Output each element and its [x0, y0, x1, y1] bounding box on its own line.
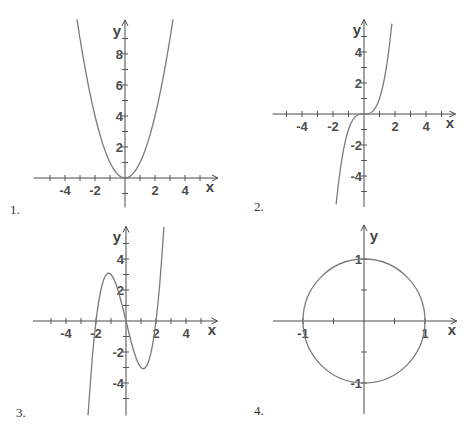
x-axis-label: x [206, 178, 215, 195]
x-axis-label: x [448, 321, 457, 338]
y-tick-label: 2 [116, 140, 123, 155]
y-tick-label: 4 [116, 109, 124, 124]
x-axis-label: x [446, 114, 455, 131]
x-axis: -11 [273, 318, 457, 341]
y-tick-label: 6 [116, 78, 123, 93]
panel-4-unit-circle-graph: -111-1xy4. [254, 225, 457, 418]
y-tick-label: 8 [116, 47, 123, 62]
y-axis-label: y [113, 228, 122, 245]
y-tick-label: -4 [350, 169, 362, 184]
figure-canvas: -4-2242468xy1. -4-22442-2-4xy2. -4-22442… [0, 0, 475, 438]
x-tick-label: 4 [182, 326, 190, 341]
x-tick-label: -2 [89, 183, 101, 198]
panel-number-label: 1. [10, 202, 20, 217]
panel-1-parabola-graph: -4-2242468xy1. [10, 19, 218, 217]
y-tick-label: -2 [350, 138, 362, 153]
y-axis-label: y [370, 227, 379, 244]
y-tick-label: -2 [112, 345, 124, 360]
panel-2-cubic-graph: -4-22442-2-4xy2. [254, 19, 455, 214]
x-tick-label: -2 [327, 119, 339, 134]
y-axis: 42-2-4 [350, 19, 367, 207]
y-tick-label: 4 [117, 252, 125, 267]
x-tick-label: -4 [59, 183, 71, 198]
y-axis: 2468 [116, 20, 128, 208]
y-axis-label: y [353, 21, 362, 38]
y-tick-label: 4 [355, 45, 363, 60]
y-tick-label: -4 [112, 376, 124, 391]
panel-number-label: 3. [16, 405, 26, 420]
y-axis-label: y [113, 22, 122, 39]
y-tick-label: 2 [355, 76, 362, 91]
x-tick-label: -2 [90, 326, 102, 341]
x-tick-label: -4 [60, 326, 72, 341]
x-axis-label: x [208, 321, 217, 338]
x-tick-label: 4 [181, 183, 189, 198]
x-tick-label: 2 [151, 183, 158, 198]
panel-number-label: 4. [254, 403, 264, 418]
panel-3-cubic-with-turning-points-graph: -4-22442-2-4xy3. [16, 226, 218, 420]
x-axis: -4-224 [33, 318, 218, 341]
y-axis: 1-1 [350, 225, 367, 414]
panel-number-label: 2. [254, 199, 264, 214]
x-tick-label: -4 [296, 119, 308, 134]
x-tick-label: 2 [391, 119, 398, 134]
x-tick-label: 4 [422, 119, 430, 134]
